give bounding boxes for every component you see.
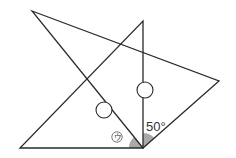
blank-circle-left[interactable] <box>96 102 112 118</box>
angle-50-label: 50° <box>146 119 166 134</box>
geometry-diagram: ウ 50° <box>0 0 236 158</box>
slanted-triangle <box>32 11 219 148</box>
angle-u-label: ウ <box>114 133 121 142</box>
right-triangle <box>20 21 143 148</box>
blank-circle-right[interactable] <box>137 82 153 98</box>
